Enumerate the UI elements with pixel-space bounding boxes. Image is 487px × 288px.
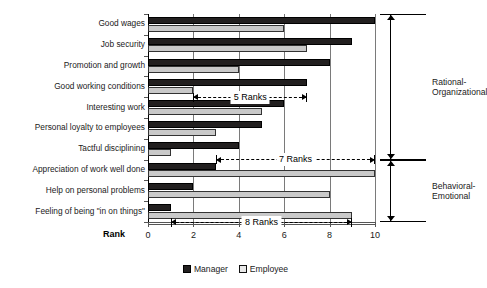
annotation-label: 7 Ranks: [276, 153, 315, 166]
annotation-arrowhead: [171, 219, 176, 225]
x-tick-label: 0: [145, 230, 150, 240]
bar-manager: [148, 163, 216, 170]
legend: ManagerEmployee: [0, 264, 471, 274]
y-tick-mark: [144, 118, 148, 119]
category-label: Personal loyalty to employees: [0, 123, 145, 132]
x-tick-label: 2: [191, 230, 196, 240]
category-label: Good working conditions: [0, 82, 145, 91]
annotation-label: 8 Ranks: [242, 216, 281, 229]
bar-manager: [148, 17, 375, 24]
annotation-arrowhead: [302, 94, 307, 100]
bracket-label: Rational-Organizational: [432, 77, 487, 97]
y-tick-mark: [144, 139, 148, 140]
bar-manager: [148, 38, 352, 45]
x-tick-label: 6: [282, 230, 287, 240]
x-tick-mark: [375, 223, 376, 227]
bar-employee: [148, 170, 375, 177]
bar-employee: [148, 129, 216, 136]
legend-swatch: [183, 265, 191, 273]
bracket-stem: [390, 160, 391, 222]
bracket-label: Behavioral-Emotional: [432, 181, 475, 201]
category-group-bracket: Rational-Organizational: [380, 14, 470, 160]
x-tick-mark: [148, 223, 149, 227]
annotation-label: 5 Ranks: [231, 91, 270, 104]
x-axis-title: Rank: [103, 229, 125, 239]
category-label: Help on personal problems: [0, 186, 145, 195]
rank-span-annotation: 8 Ranks: [171, 218, 353, 227]
bar-employee: [148, 45, 307, 52]
category-label: Promotion and growth: [0, 61, 145, 70]
annotation-arrowhead: [347, 219, 352, 225]
bar-manager: [148, 183, 193, 190]
annotation-arrowhead: [193, 94, 198, 100]
bracket-bot: [380, 221, 426, 222]
y-tick-mark: [144, 97, 148, 98]
bracket-label-line2: Organizational: [432, 87, 487, 97]
y-tick-mark: [144, 201, 148, 202]
bar-employee: [148, 25, 284, 32]
bar-employee: [148, 87, 193, 94]
y-tick-mark: [144, 222, 148, 223]
y-tick-mark: [144, 35, 148, 36]
annotation-arrowhead: [370, 157, 375, 163]
category-group-bracket: Behavioral-Emotional: [380, 160, 470, 222]
x-tick-label: 10: [370, 230, 380, 240]
bar-manager: [148, 121, 262, 128]
category-label: Job security: [0, 40, 145, 49]
bar-employee: [148, 191, 330, 198]
bracket-label-line1: Rational-: [432, 77, 487, 87]
bar-manager: [148, 142, 239, 149]
category-axis: Good wagesJob securityPromotion and grow…: [0, 14, 145, 222]
legend-label: Employee: [250, 264, 288, 274]
category-label: Interesting work: [0, 103, 145, 112]
y-tick-mark: [144, 180, 148, 181]
x-tick-label: 8: [327, 230, 332, 240]
rank-span-annotation: 5 Ranks: [193, 93, 307, 102]
legend-swatch: [239, 265, 247, 273]
gridline: [375, 14, 376, 222]
bar-employee: [148, 108, 262, 115]
rank-span-annotation: 7 Ranks: [216, 155, 375, 164]
legend-label: Manager: [194, 264, 228, 274]
category-label: Tactful disciplining: [0, 144, 145, 153]
bar-manager: [148, 59, 330, 66]
legend-item: Employee: [239, 264, 288, 274]
y-tick-mark: [144, 56, 148, 57]
bracket-arrowhead: [387, 161, 395, 166]
bracket-arrowhead: [387, 15, 395, 20]
category-label: Appreciation of work well done: [0, 165, 145, 174]
x-tick-label: 4: [236, 230, 241, 240]
annotation-arrowhead: [216, 157, 221, 163]
gridline: [330, 14, 331, 222]
bar-manager: [148, 79, 307, 86]
category-label: Feeling of being "in on things": [0, 207, 145, 216]
category-label: Good wages: [0, 19, 145, 28]
bracket-label-line1: Behavioral-: [432, 181, 475, 191]
bracket-arrowhead: [387, 154, 395, 159]
bar-manager: [148, 204, 171, 211]
y-tick-mark: [144, 160, 148, 161]
bar-employee: [148, 66, 239, 73]
bracket-label-line2: Emotional: [432, 191, 475, 201]
bracket-stem: [390, 14, 391, 160]
y-tick-mark: [144, 76, 148, 77]
bracket-arrowhead: [387, 216, 395, 221]
legend-item: Manager: [183, 264, 228, 274]
bar-employee: [148, 149, 171, 156]
plot-area: 02468105 Ranks7 Ranks8 Ranks: [148, 14, 375, 222]
y-tick-mark: [144, 14, 148, 15]
